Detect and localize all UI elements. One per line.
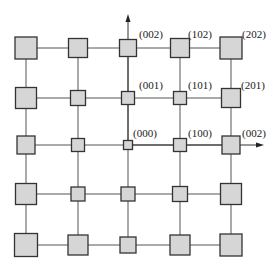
node-r1-c0	[16, 88, 37, 109]
node-r1-c2	[122, 92, 135, 105]
node-r2-c2	[124, 141, 133, 150]
node-r4-c2	[120, 237, 136, 253]
node-r3-c0	[16, 184, 37, 205]
node-r0-c3	[171, 39, 190, 58]
node-label: (202)	[242, 28, 266, 41]
arrow-up-icon	[126, 14, 131, 22]
node-r1-c3	[174, 92, 187, 105]
node-label: (002)	[139, 28, 163, 41]
node-r4-c3	[170, 235, 190, 255]
node-r0-c1	[69, 39, 88, 58]
node-label: (002)	[242, 127, 266, 140]
lattice-diagram: (002)(102)(202)(001)(101)(201)(000)(100)…	[0, 0, 276, 269]
node-r2-c0	[17, 136, 35, 154]
node-label: (201)	[241, 79, 265, 92]
node-r1-c1	[71, 91, 86, 106]
node-r1-c4	[222, 89, 241, 108]
node-r4-c1	[68, 235, 88, 255]
node-r4-c0	[15, 234, 38, 257]
node-label: (100)	[188, 127, 212, 140]
node-r2-c4	[222, 136, 240, 154]
node-r0-c2	[120, 40, 137, 57]
node-r3-c3	[173, 187, 188, 202]
arrow-right-icon	[256, 143, 264, 148]
node-r3-c4	[221, 184, 242, 205]
node-r4-c4	[220, 234, 242, 256]
node-r3-c1	[71, 187, 85, 201]
node-label: (001)	[139, 79, 163, 92]
node-label: (000)	[133, 127, 157, 140]
node-r0-c0	[15, 37, 37, 59]
node-r2-c3	[174, 139, 187, 152]
node-r2-c1	[72, 139, 85, 152]
node-r0-c4	[220, 37, 242, 59]
node-label: (101)	[188, 79, 212, 92]
node-label: (102)	[188, 28, 212, 41]
node-r3-c2	[121, 187, 135, 201]
node-labels: (002)(102)(202)(001)(101)(201)(000)(100)…	[133, 28, 266, 140]
